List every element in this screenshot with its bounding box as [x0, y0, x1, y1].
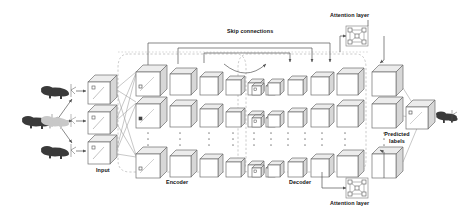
augmented-shape-bottom: [41, 144, 76, 159]
decoder-cube: [337, 100, 364, 127]
encoder-cube: [200, 154, 223, 177]
input-label: Input: [96, 167, 110, 173]
decoder-cube: [288, 76, 307, 95]
attention-layer-top-label: Attention layer: [330, 12, 369, 18]
decoder-cube: [311, 154, 334, 177]
encoder-cube: [226, 108, 245, 127]
decoder-cube: [311, 104, 334, 127]
skip-connections-label: Skip connections: [227, 28, 273, 34]
decoder-cube: [268, 111, 284, 127]
decoder-output-cube-row1: [372, 65, 403, 96]
encoder-cube: [200, 72, 223, 95]
input-to-encoder-lines: [117, 72, 136, 157]
decoder-cube: [268, 161, 284, 177]
input-cube-1: [88, 75, 117, 104]
decoder-label: Decoder: [289, 179, 311, 185]
decoder-row2: [252, 97, 403, 128]
augmented-shape-mid: [41, 114, 76, 129]
decoder-cube: [288, 108, 307, 127]
decoder-cube: [337, 150, 364, 177]
ellipsis-dots: [147, 132, 385, 146]
predicted-labels-line1: Predicted: [374, 131, 420, 137]
decoder-cube-bottleneck: [252, 83, 264, 95]
encoder-cube: [136, 65, 167, 96]
encoder-cube: [136, 97, 167, 128]
decoder-row3: [252, 147, 403, 178]
encoder-cube: [226, 76, 245, 95]
predicted-labels-cube: [406, 100, 435, 129]
encoder-cube: [170, 100, 197, 127]
decoder-output-cube-row3: [372, 147, 403, 178]
decoder-row1: [252, 65, 403, 96]
encoder-cube: [170, 150, 197, 177]
shape-to-input-arrows: [76, 91, 86, 151]
input-cube-2: [88, 105, 117, 134]
encoder-cube: [200, 104, 223, 127]
predicted-labels-line2: labels: [374, 138, 420, 144]
input-cube-3: [88, 135, 117, 164]
encoder-cube: [136, 147, 167, 178]
decoder-cube: [288, 158, 307, 177]
encoder-cube: [226, 158, 245, 177]
predicted-shape: [436, 110, 458, 123]
decoder-output-cube-row2: [372, 97, 403, 128]
decoder-cube-bottleneck: [252, 165, 264, 177]
diagram-canvas: Input Encoder Decoder Skip connections A…: [0, 0, 458, 214]
decoder-cube: [268, 79, 284, 95]
decoder-cube: [311, 72, 334, 95]
augmented-shape-top: [41, 84, 76, 99]
attention-layer-bottom-label: Attention layer: [330, 200, 369, 206]
encoder-cube: [170, 68, 197, 95]
decoder-cube-bottleneck: [252, 115, 264, 127]
attention-layer-top: [340, 20, 384, 63]
encoder-label: Encoder: [166, 179, 188, 185]
decoder-cube: [337, 68, 364, 95]
